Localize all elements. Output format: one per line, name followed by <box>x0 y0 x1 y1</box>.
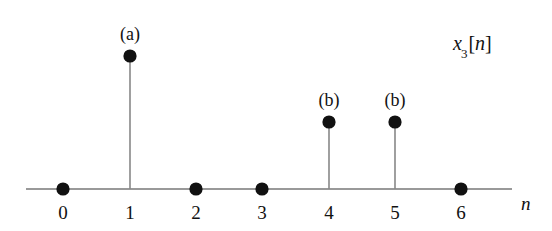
point-annotation-label: (a) <box>120 25 140 43</box>
signal-subscript: 3 <box>461 46 468 61</box>
signal-index-symbol: n <box>475 32 485 54</box>
x-axis-variable-label: n <box>521 194 531 213</box>
point-annotation-label: (b) <box>319 91 340 109</box>
x-axis-tick-label: 5 <box>390 203 400 222</box>
data-point-marker[interactable] <box>255 182 268 195</box>
x-axis-tick-label: 0 <box>58 203 68 222</box>
data-point-marker[interactable] <box>388 115 401 128</box>
data-point-marker[interactable] <box>322 115 335 128</box>
data-point-marker[interactable] <box>123 49 136 62</box>
signal-bracket-close: ] <box>485 32 492 54</box>
x-axis-tick-label: 3 <box>257 203 267 222</box>
x-axis-tick-label: 4 <box>324 203 334 222</box>
point-annotation-label: (b) <box>385 91 406 109</box>
data-point-marker[interactable] <box>454 182 467 195</box>
signal-name-label: x3[n] <box>453 33 492 57</box>
x-axis-tick-label: 2 <box>191 203 201 222</box>
stem-plot-figure: 0123456 (a)(b)(b) x3[n] n <box>0 0 552 231</box>
x-axis-tick-label: 6 <box>456 203 466 222</box>
x-axis-tick-label: 1 <box>125 203 135 222</box>
data-point-marker[interactable] <box>56 182 69 195</box>
data-point-marker[interactable] <box>189 182 202 195</box>
